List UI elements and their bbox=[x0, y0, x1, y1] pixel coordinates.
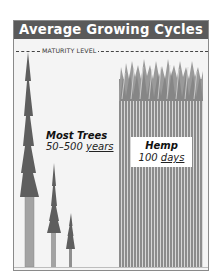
hemp-label: Hemp 100 days bbox=[131, 137, 192, 167]
infographic-frame: Average Growing Cycles bbox=[13, 20, 209, 271]
trees-name: Most Trees bbox=[46, 130, 114, 141]
maturity-level-label: MATURITY LEVEL bbox=[40, 46, 98, 56]
tree-icon-small bbox=[66, 213, 75, 267]
trees-unit: years bbox=[86, 141, 114, 152]
hemp-name: Hemp bbox=[131, 140, 192, 152]
hemp-cycle: 100 days bbox=[131, 152, 192, 164]
trees-range: 50–500 bbox=[46, 141, 83, 152]
dashed-line-left bbox=[16, 51, 40, 52]
tree-icon-medium bbox=[47, 163, 61, 267]
hemp-unit: days bbox=[161, 152, 185, 163]
trees-label: Most Trees 50–500 years bbox=[46, 130, 114, 152]
trees-cycle: 50–500 years bbox=[46, 141, 114, 152]
hemp-value: 100 bbox=[139, 152, 158, 163]
dashed-line-right bbox=[96, 51, 208, 52]
maturity-level-line: MATURITY LEVEL bbox=[16, 46, 208, 56]
tree-icon-large bbox=[18, 52, 41, 267]
